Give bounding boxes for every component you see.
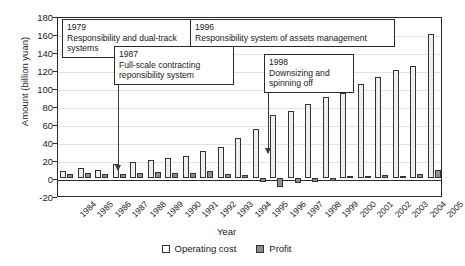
y-tick-label: -20 (39, 192, 53, 203)
bar-profit (277, 178, 283, 187)
bar-operating-cost (305, 104, 311, 178)
bar-operating-cost (165, 158, 171, 178)
bar-operating-cost (148, 160, 154, 178)
legend-label: Operating cost (175, 243, 237, 254)
y-tick-mark (53, 197, 57, 198)
legend-item-operating-cost[interactable]: Operating cost (162, 243, 237, 254)
bar-profit (312, 178, 318, 182)
bar-operating-cost (130, 162, 136, 178)
bar-operating-cost (270, 115, 276, 178)
x-tick-label: 1998 (322, 199, 342, 219)
annotation-year: 1979 (67, 22, 205, 33)
bar-operating-cost (95, 170, 101, 178)
annotation-text: Downsizing and spinning off (269, 68, 349, 89)
x-tick-label: 1997 (305, 199, 325, 219)
annotation-callout-1987: 1987Full-scale contracting reponsibility… (114, 46, 234, 85)
bar-profit (347, 176, 353, 178)
bar-operating-cost (323, 97, 329, 178)
x-tick-label: 1987 (130, 199, 150, 219)
bar-profit (120, 174, 126, 179)
annotation-callout-1998: 1998Downsizing and spinning off (264, 54, 354, 93)
bar-operating-cost (200, 151, 206, 178)
bar-profit (102, 174, 108, 179)
bar-profit (365, 176, 371, 178)
bar-slot (426, 16, 444, 196)
bar-operating-cost (288, 111, 294, 179)
bar-operating-cost (410, 66, 416, 179)
x-tick-label: 1984 (77, 199, 97, 219)
bar-profit (225, 174, 231, 179)
x-tick-label: 1996 (287, 199, 307, 219)
bar-profit (67, 174, 73, 179)
x-tick-label: 1994 (252, 199, 272, 219)
legend-item-profit[interactable]: Profit (256, 243, 291, 254)
annotation-year: 1996 (195, 22, 390, 33)
annotation-arrow-1998 (268, 93, 269, 153)
bar-operating-cost (183, 156, 189, 179)
y-axis-ticks: 180160140120100806040200-20 (0, 0, 57, 198)
x-tick-label: 1993 (235, 199, 255, 219)
bar-profit (155, 172, 161, 178)
bar-profit (190, 173, 196, 178)
bar-operating-cost (78, 168, 84, 178)
annotation-year: 1987 (119, 49, 229, 60)
bar-operating-cost (60, 171, 66, 178)
bar-operating-cost (428, 34, 434, 178)
bar-operating-cost (235, 138, 241, 179)
x-tick-label: 1985 (95, 199, 115, 219)
annotation-text: Responsibility system of assets manageme… (195, 33, 390, 44)
legend-label: Profit (269, 243, 291, 254)
bar-profit (382, 175, 388, 178)
x-tick-label: 2005 (445, 199, 465, 219)
legend-swatch (256, 245, 264, 253)
bar-operating-cost (218, 147, 224, 179)
x-tick-label: 2002 (392, 199, 412, 219)
bar-operating-cost (375, 77, 381, 178)
x-axis-title: Year (0, 226, 453, 237)
x-tick-label: 1990 (182, 199, 202, 219)
y-tick-label: 40 (42, 138, 53, 149)
bar-profit (295, 178, 301, 183)
x-tick-label: 1991 (200, 199, 220, 219)
bar-profit (85, 173, 91, 178)
y-tick-label: 60 (42, 120, 53, 131)
x-tick-label: 1989 (165, 199, 185, 219)
y-tick-label: 20 (42, 156, 53, 167)
x-tick-label: 1988 (147, 199, 167, 219)
bar-slot (408, 16, 426, 196)
x-tick-label: 1992 (217, 199, 237, 219)
y-tick-label: 140 (37, 48, 53, 59)
x-tick-label: 2004 (427, 199, 447, 219)
annotation-year: 1998 (269, 57, 349, 68)
y-tick-label: 100 (37, 84, 53, 95)
bar-profit (172, 173, 178, 178)
bar-profit (242, 175, 248, 178)
bar-profit (330, 178, 336, 181)
y-tick-label: 120 (37, 66, 53, 77)
x-tick-label: 1999 (340, 199, 360, 219)
y-tick-label: 160 (37, 30, 53, 41)
x-tick-label: 1995 (270, 199, 290, 219)
bar-profit (207, 171, 213, 178)
bar-operating-cost (358, 84, 364, 179)
annotation-arrow-1987 (118, 85, 119, 170)
bar-profit (137, 173, 143, 178)
annotation-callout-1996: 1996Responsibility system of assets mana… (190, 19, 395, 47)
bar-profit (417, 174, 423, 178)
annotation-text: Full-scale contracting reponsibility sys… (119, 60, 229, 81)
bar-operating-cost (253, 129, 259, 179)
bar-operating-cost (340, 93, 346, 179)
x-tick-label: 2001 (375, 199, 395, 219)
x-tick-label: 1986 (112, 199, 132, 219)
bar-profit (400, 176, 406, 178)
x-tick-label: 2003 (410, 199, 430, 219)
bar-profit (260, 178, 266, 182)
x-tick-label: 2000 (357, 199, 377, 219)
legend-swatch (162, 245, 170, 253)
bar-profit (435, 170, 441, 178)
chart-legend: Operating costProfit (0, 243, 453, 254)
bar-operating-cost (393, 70, 399, 178)
y-tick-label: 80 (42, 102, 53, 113)
y-tick-label: 180 (37, 12, 53, 23)
